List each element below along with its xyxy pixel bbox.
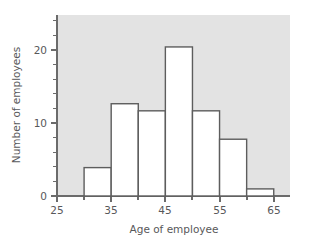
histogram-bar [111,104,138,196]
y-axis-group: 0 10 20 [34,15,57,202]
y-tick-label-20: 20 [34,44,47,56]
histogram-bar [192,111,219,196]
histogram-bar [138,111,165,196]
x-tick-label-25: 25 [50,204,63,216]
y-tick-label-10: 10 [34,117,47,129]
y-axis-title: Number of employees [10,47,22,163]
histogram-bar [165,47,192,196]
histogram-bar [247,189,274,196]
chart-canvas: 0 10 20 25 35 45 55 65 Age of employee N… [0,0,312,242]
x-tick-label-55: 55 [213,204,226,216]
x-tick-label-35: 35 [104,204,117,216]
x-tick-label-45: 45 [158,204,171,216]
histogram-bar [84,168,111,196]
x-tick-label-65: 65 [267,204,280,216]
x-axis-group: 25 35 45 55 65 [50,196,290,216]
histogram-figure: 0 10 20 25 35 45 55 65 Age of employee N… [0,0,312,242]
y-tick-label-0: 0 [40,190,47,202]
x-axis-title: Age of employee [130,223,219,235]
histogram-bar [220,139,247,196]
